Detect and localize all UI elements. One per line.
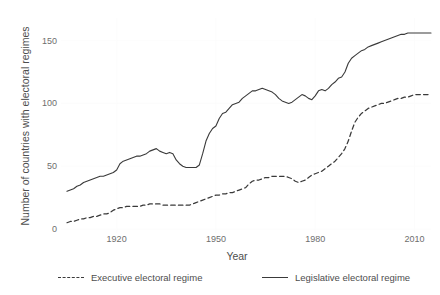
dashed-line-key-icon <box>58 277 84 278</box>
x-axis-title-text: Year <box>226 250 247 262</box>
solid-line-key-icon <box>262 277 288 278</box>
legend-item-legislative: Legislative electoral regime <box>262 272 410 283</box>
legend-item-executive: Executive electoral regime <box>58 272 202 283</box>
x-axis-title: Year <box>0 250 440 262</box>
legend-label-executive: Executive electoral regime <box>91 272 202 283</box>
gridlines <box>61 18 431 233</box>
chart-figure: Number of countries with electoral regim… <box>0 0 440 295</box>
series-line-executive <box>67 95 431 223</box>
series-line-legislative <box>67 33 431 191</box>
legend-label-legislative: Legislative electoral regime <box>295 272 410 283</box>
chart-legend: Executive electoral regime Legislative e… <box>0 272 440 292</box>
